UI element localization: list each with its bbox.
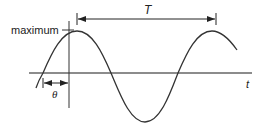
period-label: T: [144, 4, 151, 16]
diagram-graphics: [0, 0, 264, 129]
sine-wave-diagram: maximum T θ t: [0, 0, 264, 129]
maximum-label: maximum: [11, 25, 59, 36]
phase-label: θ: [52, 89, 57, 100]
time-axis-label: t: [246, 79, 249, 90]
sine-curve: [36, 31, 237, 122]
